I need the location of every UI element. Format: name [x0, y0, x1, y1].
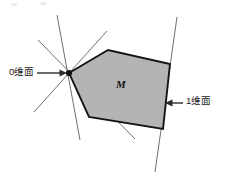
figure-container: 0维面 1维面 M	[0, 0, 233, 189]
one-face-arrow	[165, 100, 183, 107]
zero-face-arrow	[37, 70, 67, 77]
convex-set-label: M	[116, 78, 126, 90]
one-dimensional-face-label: 1维面	[186, 95, 211, 106]
zero-dimensional-face-label: 0维面	[9, 66, 34, 77]
